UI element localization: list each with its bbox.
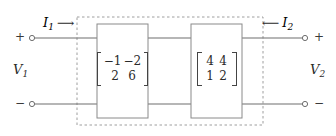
current-label-i2-group: ⟵ I2 xyxy=(262,15,293,32)
matrix-2-bracket-right xyxy=(232,52,237,86)
matrix-1-body: −1 −2 2 6 xyxy=(101,52,144,86)
matrix-2-row-1: 1 2 xyxy=(204,69,230,84)
terminal-left-top xyxy=(29,35,34,40)
voltage-label-v1-symbol: V xyxy=(13,62,22,77)
polarity-left-bottom: − xyxy=(15,97,25,109)
block-1-matrix: −1 −2 2 6 xyxy=(97,52,148,86)
terminal-right-bottom xyxy=(302,101,307,106)
matrix-2-row-0: 4 4 xyxy=(204,54,230,69)
matrix-1-cell-1-1: 6 xyxy=(120,69,137,84)
matrix-2-cell-0-1: 4 xyxy=(217,54,230,69)
polarity-right-top: + xyxy=(314,31,324,43)
matrix-1-cell-0-0: −1 xyxy=(103,54,123,69)
matrix-2-body: 4 4 1 2 xyxy=(202,52,232,86)
polarity-right-bottom: − xyxy=(314,97,324,109)
matrix-2-cell-1-0: 1 xyxy=(204,69,217,84)
matrix-1-cell-0-1: −2 xyxy=(123,54,143,69)
current-label-i2: I2 xyxy=(282,15,293,32)
current-arrow-right-icon: ⟶ xyxy=(57,16,74,30)
terminal-left-bottom xyxy=(29,101,34,106)
voltage-label-v1: V1 xyxy=(13,63,28,79)
polarity-left-top: + xyxy=(15,31,25,43)
current-label-i1: I1 xyxy=(43,15,54,32)
matrix-1-row-1: 2 6 xyxy=(103,69,142,84)
current-label-i2-symbol: I xyxy=(282,15,287,30)
matrix-2-cell-1-1: 2 xyxy=(217,69,230,84)
current-label-i2-subscript: 2 xyxy=(288,22,294,32)
terminal-right-top xyxy=(302,35,307,40)
voltage-label-v2-symbol: V xyxy=(310,62,319,77)
matrix-1-row-0: −1 −2 xyxy=(103,54,142,69)
current-arrow-left-icon: ⟵ xyxy=(262,16,279,30)
block-2-matrix: 4 4 1 2 xyxy=(191,52,242,86)
two-port-network-diagram: + − + − V1 V2 I1 ⟶ ⟵ I2 −1 −2 2 6 xyxy=(0,0,336,136)
voltage-label-v1-subscript: 1 xyxy=(23,69,29,79)
current-label-i1-group: I1 ⟶ xyxy=(43,15,74,32)
current-label-i1-subscript: 1 xyxy=(48,22,54,32)
voltage-label-v2: V2 xyxy=(310,63,325,79)
voltage-label-v2-subscript: 2 xyxy=(320,69,326,79)
matrix-2-cell-0-0: 4 xyxy=(204,54,217,69)
matrix-1-cell-1-0: 2 xyxy=(103,69,120,84)
matrix-1-bracket-right xyxy=(144,52,148,86)
